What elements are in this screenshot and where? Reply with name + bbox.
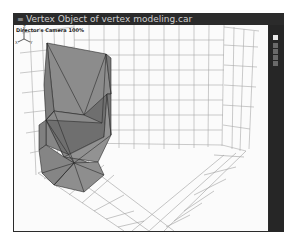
view-mode-button-2[interactable]: [273, 43, 278, 48]
menu-icon[interactable]: ≡: [17, 14, 23, 25]
scene-canvas[interactable]: [14, 25, 268, 231]
view-mode-button-5[interactable]: [273, 61, 278, 66]
title-bar[interactable]: ≡Vertex Object of vertex modeling.car: [13, 13, 284, 25]
viewport-window: ≡Vertex Object of vertex modeling.car: [13, 13, 284, 232]
axis-z-label: Z: [23, 25, 26, 29]
3d-viewport[interactable]: Director's Camera 100% Z X Y: [14, 25, 268, 231]
view-mode-button-3[interactable]: [273, 49, 278, 54]
axis-x-label: X: [15, 40, 18, 45]
vertex-mesh: [39, 43, 111, 192]
axis-gizmo-icon: Z X Y: [14, 25, 34, 47]
axis-y-label: Y: [29, 40, 33, 45]
window-title: Vertex Object of vertex modeling.car: [26, 14, 192, 24]
view-sidebar: [269, 25, 284, 232]
grid-right-wall: [222, 27, 259, 151]
view-mode-button-4[interactable]: [273, 55, 278, 60]
view-mode-button-1[interactable]: [273, 35, 278, 40]
